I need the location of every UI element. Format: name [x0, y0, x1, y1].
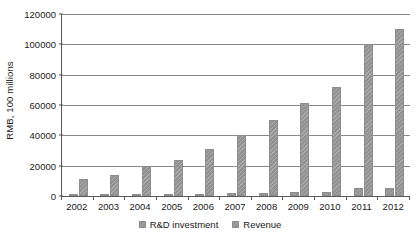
x-tick-mark: [251, 196, 252, 200]
x-tick-label: 2007: [224, 201, 245, 212]
bar-group: [259, 14, 277, 196]
x-tick-label: 2005: [161, 201, 182, 212]
x-axis: 2002200320042005200620072008200920102011…: [61, 196, 409, 218]
bar-group: [385, 14, 403, 196]
legend-label: Revenue: [243, 219, 281, 230]
bar-group: [195, 14, 213, 196]
bar-group: [354, 14, 372, 196]
x-tick-label: 2011: [351, 201, 371, 212]
x-tick-mark: [314, 196, 315, 200]
bar-revenue: [110, 175, 119, 196]
x-tick-label: 2006: [193, 201, 214, 212]
x-tick-label: 2010: [319, 201, 340, 212]
bar-group: [132, 14, 150, 196]
bar-group: [322, 14, 340, 196]
x-tick-mark: [377, 196, 378, 200]
y-tick-label: 100000: [24, 39, 56, 50]
bar-revenue: [79, 179, 88, 196]
x-tick-label: 2003: [98, 201, 119, 212]
y-tick-label: 0: [51, 191, 56, 202]
y-axis-tick-labels: 020000400006000080000100000120000: [16, 8, 60, 198]
x-tick-mark: [188, 196, 189, 200]
x-tick-mark: [219, 196, 220, 200]
bar-revenue: [395, 29, 404, 196]
y-tick-label: 60000: [30, 100, 56, 111]
y-axis-title-text: RMB, 100 millions: [4, 61, 15, 139]
bars-layer: [62, 14, 410, 196]
legend-label: R&D investment: [150, 219, 219, 230]
x-tick-label: 2004: [130, 201, 151, 212]
bar-revenue: [300, 103, 309, 196]
bar-chart-figure: RMB, 100 millions 0200004000060000800001…: [0, 0, 420, 239]
bar-revenue: [237, 135, 246, 196]
bar-revenue: [205, 149, 214, 196]
x-tick-mark: [124, 196, 125, 200]
bar-revenue: [269, 120, 278, 196]
bar-group: [100, 14, 118, 196]
x-tick-label: 2009: [288, 201, 309, 212]
y-tick-label: 80000: [30, 69, 56, 80]
bar-revenue: [332, 87, 341, 196]
legend-item: R&D investment: [139, 219, 219, 230]
x-tick-label: 2012: [383, 201, 404, 212]
bar-revenue: [364, 44, 373, 196]
chart-legend: R&D investmentRevenue: [0, 219, 420, 230]
x-tick-mark: [61, 196, 62, 200]
plot-area: [61, 14, 410, 197]
bar-group: [69, 14, 87, 196]
x-tick-mark: [93, 196, 94, 200]
x-tick-mark: [409, 196, 410, 200]
bar-revenue: [142, 166, 151, 196]
legend-swatch-icon: [232, 221, 239, 228]
x-tick-label: 2008: [256, 201, 277, 212]
y-tick-label: 20000: [30, 160, 56, 171]
bar-group: [290, 14, 308, 196]
legend-swatch-icon: [139, 221, 146, 228]
x-tick-mark: [282, 196, 283, 200]
y-tick-label: 120000: [24, 9, 56, 20]
bar-rd-investment: [385, 188, 394, 196]
x-tick-mark: [346, 196, 347, 200]
x-tick-label: 2002: [66, 201, 87, 212]
legend-item: Revenue: [232, 219, 281, 230]
bar-rd-investment: [354, 188, 363, 196]
bar-group: [227, 14, 245, 196]
x-tick-mark: [156, 196, 157, 200]
y-tick-label: 40000: [30, 130, 56, 141]
bar-revenue: [174, 160, 183, 196]
bar-group: [164, 14, 182, 196]
